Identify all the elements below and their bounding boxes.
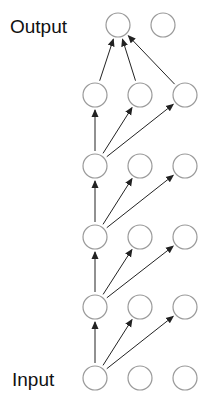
hidden-2-node-0 — [83, 225, 107, 249]
edge-arrow — [107, 104, 173, 156]
hidden-4-node-1 — [128, 83, 152, 107]
edge-arrow — [107, 316, 173, 368]
hidden-1-node-2 — [173, 295, 197, 319]
hidden-3-node-1 — [128, 154, 152, 178]
edge-arrow — [107, 246, 173, 298]
edge-arrow — [107, 175, 173, 227]
hidden-1-node-0 — [83, 295, 107, 319]
output-node-1 — [151, 13, 175, 37]
network-diagram — [0, 0, 209, 406]
hidden-4-node-2 — [173, 83, 197, 107]
hidden-4-node-0 — [83, 83, 107, 107]
edge-arrow — [100, 39, 114, 80]
hidden-3-node-0 — [83, 154, 107, 178]
hidden-2-node-2 — [173, 225, 197, 249]
edge-arrow — [122, 39, 135, 80]
edge-arrow — [103, 179, 132, 225]
input-node-0 — [83, 366, 107, 390]
output-node-0 — [106, 13, 130, 37]
edge-arrow — [103, 250, 132, 295]
hidden-1-node-1 — [128, 295, 152, 319]
hidden-2-node-1 — [128, 225, 152, 249]
edge-arrow — [103, 320, 132, 366]
hidden-3-node-2 — [173, 154, 197, 178]
input-node-2 — [173, 366, 197, 390]
input-node-1 — [128, 366, 152, 390]
edge-arrow — [128, 36, 174, 84]
edge-arrow — [103, 108, 132, 154]
